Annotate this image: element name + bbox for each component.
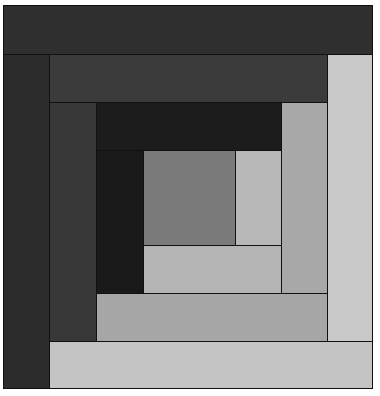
log-ring2-top — [96, 102, 282, 151]
log-ring3-bottom — [49, 341, 373, 389]
log-ring4-left — [3, 54, 50, 389]
log-ring2-left — [96, 150, 144, 294]
log-ring1-bottom — [143, 245, 282, 294]
log-ring3-right — [327, 54, 373, 342]
log-ring3-top — [49, 54, 328, 103]
log-center-square — [143, 150, 236, 246]
log-ring4-top — [3, 5, 373, 55]
log-ring2-right — [281, 102, 328, 294]
log-ring1-right — [235, 150, 282, 246]
log-ring2-bottom — [96, 293, 328, 342]
log-ring3-left — [49, 102, 97, 342]
